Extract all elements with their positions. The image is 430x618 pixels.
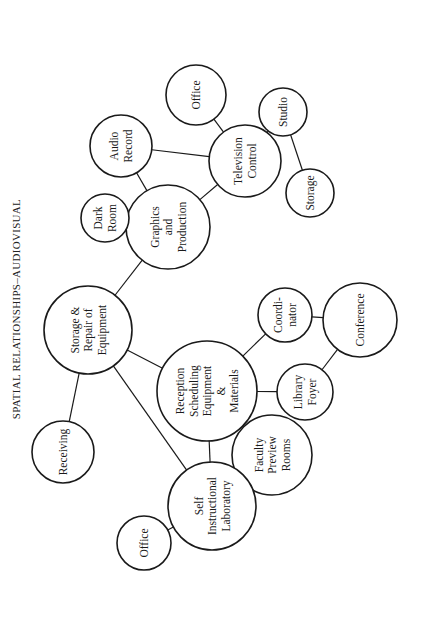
edge-graphics-production-to-television-control: [200, 184, 218, 199]
edge-reception-to-self-instructional: [209, 441, 210, 462]
node-office-top: Office: [166, 65, 226, 125]
node-office-bottom: Office: [117, 516, 171, 570]
node-label-line: Library: [292, 375, 305, 410]
node-label-line: Conference: [354, 294, 366, 347]
node-label: Conference: [354, 294, 366, 347]
node-label-line: Storage: [304, 175, 317, 210]
node-studio: Studio: [259, 88, 307, 136]
node-label-line: Equipment: [96, 304, 109, 355]
edge-storage-repair-to-graphics-production: [115, 260, 142, 295]
node-label-line: Faculty: [253, 438, 266, 473]
node-label-line: Coordi-: [272, 297, 284, 333]
node-label: AudioRecord: [108, 129, 134, 162]
node-label-line: Laboratory: [220, 480, 233, 531]
node-audio-record: AudioRecord: [90, 115, 152, 177]
node-conference: Conference: [323, 283, 397, 357]
node-label: Studio: [277, 97, 289, 127]
node-label-line: Reception: [174, 367, 187, 414]
node-label-line: Studio: [277, 97, 289, 127]
edge-library-foyer-to-conference: [322, 349, 338, 369]
node-storage-repair: Storage &Repair ofEquipment: [44, 286, 132, 374]
node-label-line: Office: [190, 80, 202, 109]
edge-audio-record-to-television-control: [152, 150, 209, 157]
node-label-line: &: [215, 386, 227, 395]
node-label-line: and: [162, 218, 174, 235]
node-label-line: Rooms: [280, 438, 292, 471]
edge-storage-repair-to-reception: [127, 350, 162, 368]
node-label: Office: [190, 80, 202, 109]
node-label-line: Office: [138, 528, 150, 557]
node-label: ReceptionSchedulingEquipment&Materials: [174, 365, 240, 417]
node-label-line: Materials: [228, 369, 240, 413]
node-dark-room: DarkRoom: [81, 194, 129, 242]
node-label: Storage &Repair ofEquipment: [69, 304, 109, 355]
node-receiving: Receiving: [32, 421, 94, 483]
node-label: Office: [138, 528, 150, 557]
edge-studio-to-storage: [291, 135, 303, 170]
node-label-line: Foyer: [306, 378, 319, 405]
node-label-line: Storage &: [69, 306, 82, 353]
node-label: DarkRoom: [92, 204, 118, 232]
node-label-line: Receiving: [57, 428, 70, 475]
node-label-line: Room: [106, 204, 118, 232]
node-label-line: Record: [122, 129, 134, 162]
edge-coordinator-to-conference: [312, 317, 323, 318]
node-label-line: Instructional: [206, 477, 218, 535]
node-label-line: Control: [246, 143, 258, 178]
node-library-foyer: LibraryFoyer: [277, 364, 333, 420]
node-graphics-production: GraphicsandProduction: [126, 185, 210, 269]
node-label-line: Graphics: [149, 206, 162, 248]
node-label-line: Television: [232, 137, 244, 185]
edge-graphics-production-to-audio-record: [137, 173, 147, 191]
node-television-control: TelevisionControl: [209, 125, 281, 197]
diagram-title: SPATIAL RELATIONSHIPS–AUDIOVISUAL: [10, 199, 22, 419]
node-label: Storage: [304, 175, 317, 210]
node-label: TelevisionControl: [232, 137, 258, 185]
edge-reception-to-coordinator: [243, 334, 266, 356]
node-label-line: nator: [286, 303, 298, 327]
node-label-line: Production: [176, 202, 188, 253]
node-coordinator: Coordi-nator: [258, 288, 312, 342]
node-label-line: Scheduling: [188, 365, 201, 417]
node-storage: Storage: [286, 169, 334, 217]
edge-television-control-to-office-top: [214, 119, 224, 132]
node-label-line: Self: [193, 497, 205, 516]
spatial-relationship-diagram: SPATIAL RELATIONSHIPS–AUDIOVISUAL Receiv…: [0, 0, 430, 618]
node-reception: ReceptionSchedulingEquipment&Materials: [157, 341, 257, 441]
edge-receiving-to-storage-repair: [69, 373, 79, 422]
node-label: Receiving: [57, 428, 70, 475]
node-label-line: Repair of: [82, 308, 95, 351]
node-label: FacultyPreviewRooms: [253, 435, 292, 473]
edge-self-instructional-to-office-bottom: [168, 527, 174, 530]
node-label-line: Preview: [266, 435, 278, 473]
node-label-line: Audio: [108, 131, 120, 160]
node-label: LibraryFoyer: [292, 375, 319, 410]
room-nodes: ReceivingStorage &Repair ofEquipmentGrap…: [32, 65, 397, 570]
node-label-line: Dark: [92, 206, 104, 229]
node-label-line: Equipment: [201, 365, 214, 416]
node-self-instructional: SelfInstructionalLaboratory: [168, 462, 256, 550]
